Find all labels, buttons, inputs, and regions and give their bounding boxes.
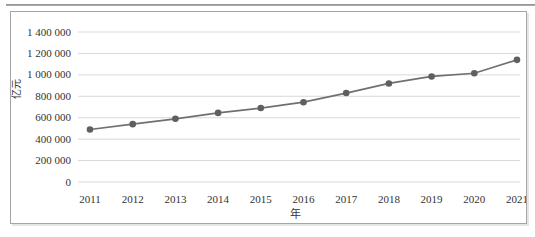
y-tick-label: 600 000 bbox=[35, 111, 71, 123]
x-tick-label: 2020 bbox=[463, 193, 486, 205]
data-point bbox=[215, 110, 222, 117]
y-tick-label: 200 000 bbox=[35, 154, 71, 166]
x-tick-label: 2016 bbox=[293, 193, 316, 205]
y-tick-label: 1 400 000 bbox=[27, 26, 72, 38]
series-line bbox=[90, 60, 517, 130]
y-tick-label: 1 000 000 bbox=[27, 68, 72, 80]
x-tick-label: 2011 bbox=[79, 193, 101, 205]
data-point bbox=[258, 105, 265, 112]
data-point bbox=[343, 90, 350, 97]
y-tick-label: 400 000 bbox=[35, 133, 71, 145]
data-point bbox=[386, 80, 393, 87]
y-tick-label: 0 bbox=[66, 176, 72, 188]
data-point bbox=[300, 99, 307, 106]
x-tick-label: 2013 bbox=[164, 193, 187, 205]
figure-scan: 0200 000400 000600 000800 0001 000 0001 … bbox=[0, 0, 535, 237]
x-tick-label: 2015 bbox=[250, 193, 273, 205]
top-rule bbox=[6, 4, 535, 6]
x-axis-title: 年 bbox=[290, 207, 301, 220]
chart-frame: 0200 000400 000600 000800 0001 000 0001 … bbox=[10, 11, 527, 224]
x-tick-label: 2021 bbox=[506, 193, 526, 205]
x-tick-label: 2018 bbox=[378, 193, 401, 205]
chart-svg: 0200 000400 000600 000800 0001 000 0001 … bbox=[11, 12, 526, 223]
x-tick-label: 2019 bbox=[421, 193, 444, 205]
y-axis-title: 亿元 bbox=[11, 79, 22, 99]
x-tick-label: 2017 bbox=[335, 193, 358, 205]
y-tick-label: 800 000 bbox=[35, 90, 71, 102]
data-point bbox=[514, 57, 521, 64]
data-point bbox=[471, 70, 478, 77]
x-tick-label: 2012 bbox=[122, 193, 144, 205]
data-point bbox=[87, 126, 94, 133]
data-point bbox=[428, 73, 435, 80]
x-tick-label: 2014 bbox=[207, 193, 230, 205]
data-point bbox=[172, 115, 179, 122]
data-point bbox=[129, 121, 136, 128]
y-tick-label: 1 200 000 bbox=[27, 47, 72, 59]
